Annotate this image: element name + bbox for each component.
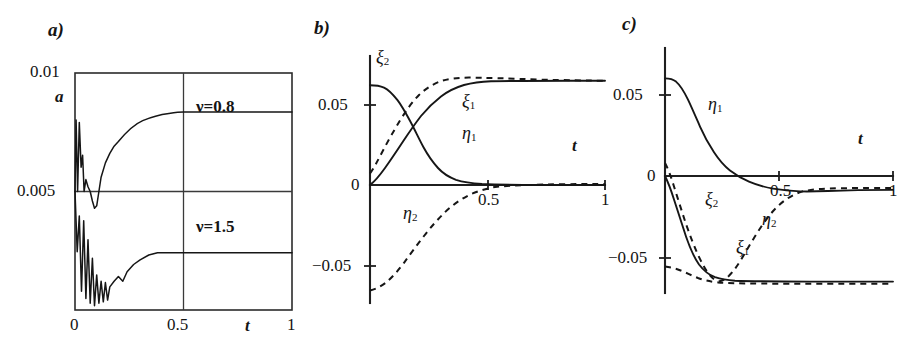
- panel-a-ytick-mid: 0.005: [17, 182, 55, 199]
- panel-c-ytick-neg: −0.05: [608, 249, 647, 266]
- panel-c: c) 0.05 0 −0.05 0.5 1 t η1 ξ2 η2 ξ1: [610, 0, 917, 353]
- panel-c-xtick-half: 0.5: [770, 182, 791, 199]
- panel-b-curve-eta1: [370, 78, 605, 174]
- panel-a-xtick-half: 0.5: [167, 316, 188, 333]
- panel-b-xaxis-name: t: [572, 137, 577, 154]
- panel-a-xaxis-name: t: [245, 317, 250, 334]
- panel-c-curve-label-xi1: ξ1: [736, 238, 749, 256]
- panel-b: b) 0.05 0 −0.05 0.5 1 t ξ2 ξ1 η1 η2: [310, 0, 610, 353]
- panel-c-curve-label-eta1: η1: [708, 95, 722, 113]
- panel-a-xtick-zero: 0: [70, 316, 79, 333]
- panel-b-ytick-pos: 0.05: [318, 96, 348, 113]
- figure-root: a) 0.01 a 0.005 0 0.5 t 1 ν=0.8 ν=1.5 b): [0, 0, 917, 353]
- panel-b-ytick-zero: 0: [351, 176, 360, 193]
- panel-c-xtick-one: 1: [889, 182, 898, 199]
- panel-a-annotation-nu08: ν=0.8: [196, 98, 235, 115]
- panel-c-ytick-zero: 0: [647, 167, 656, 184]
- panel-a-plot: [0, 0, 310, 353]
- panel-b-curve-xi2: [370, 85, 605, 185]
- panel-c-plot: [610, 0, 917, 353]
- panel-c-curve-label-eta2: η2: [762, 210, 776, 228]
- panel-b-curve-label-eta1: η1: [462, 124, 476, 142]
- panel-c-ytick-pos: 0.05: [613, 86, 643, 103]
- panel-b-curve-xi1: [370, 81, 605, 185]
- panel-a-annotation-nu15: ν=1.5: [196, 218, 235, 235]
- panel-b-ytick-neg: −0.05: [312, 257, 351, 274]
- panel-b-xtick-half: 0.5: [478, 191, 499, 208]
- panel-a: a) 0.01 a 0.005 0 0.5 t 1 ν=0.8 ν=1.5: [0, 0, 310, 353]
- panel-a-xtick-one: 1: [287, 316, 296, 333]
- panel-c-xaxis-name: t: [858, 130, 863, 147]
- panel-b-xtick-one: 1: [601, 191, 610, 208]
- panel-b-curve-label-xi1: ξ1: [462, 92, 475, 110]
- panel-b-curve-label-xi2: ξ2: [376, 48, 389, 66]
- panel-b-curve-label-eta2: η2: [403, 204, 417, 222]
- panel-c-curve-label-xi2: ξ2: [705, 190, 718, 208]
- panel-a-yaxis-name: a: [55, 88, 64, 105]
- panel-a-ytick-top: 0.01: [30, 63, 60, 80]
